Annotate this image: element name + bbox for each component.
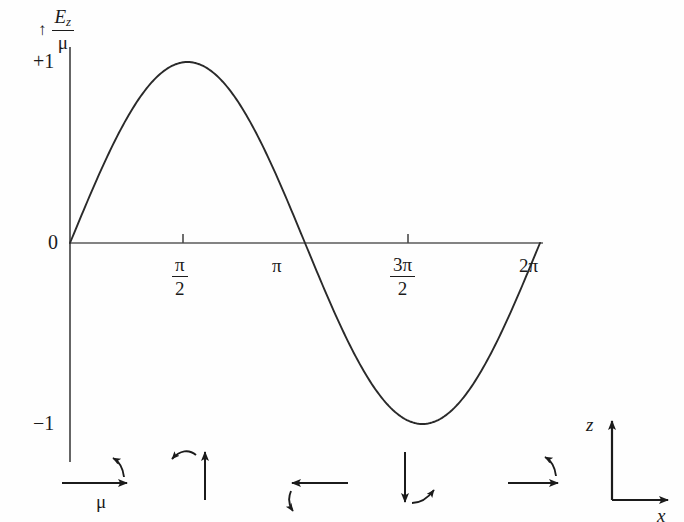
rotation-curve-1-icon xyxy=(113,458,124,477)
coord-label-z: z xyxy=(586,415,593,434)
coordinate-key xyxy=(612,421,668,500)
dipole-arrow-group-3 xyxy=(289,483,348,511)
coord-label-x: x xyxy=(657,506,665,522)
rotation-curve-4-icon xyxy=(412,490,434,503)
x-tick-label-3pi-over-2: 3π 2 xyxy=(390,254,415,300)
y-axis-fraction: Ez μ xyxy=(52,6,75,54)
y-axis-arrow-icon: ↑ xyxy=(38,21,47,38)
x-tick-label-pi: π xyxy=(272,256,282,275)
rotation-curve-2-icon xyxy=(172,451,196,459)
dipole-arrow-group-4 xyxy=(405,452,434,503)
dipole-arrow-group-1 xyxy=(62,458,127,483)
y-axis-caption: ↑ Ez μ xyxy=(38,6,74,54)
figure-root: ↑ Ez μ +1 0 −1 π 2 π 3π 2 2π μ z x xyxy=(0,0,684,522)
rotation-curve-5-icon xyxy=(545,457,556,476)
x-tick-label-pi-over-2: π 2 xyxy=(172,254,188,300)
y-tick-label-zero: 0 xyxy=(48,232,58,252)
y-axis-numerator: Ez xyxy=(52,6,75,31)
figure-canvas xyxy=(0,0,684,522)
x-tick-fraction-pi-over-2: π 2 xyxy=(172,254,188,300)
x-tick-fraction-3pi-over-2: 3π 2 xyxy=(390,254,415,300)
x-tick-label-2pi: 2π xyxy=(519,256,538,275)
y-axis-denominator: μ xyxy=(52,31,75,53)
dipole-arrow-group-2 xyxy=(172,451,205,500)
rotation-curve-3-icon xyxy=(289,491,293,511)
dipole-mu-label: μ xyxy=(96,492,106,511)
y-tick-label-plus-one: +1 xyxy=(33,51,54,71)
y-tick-label-minus-one: −1 xyxy=(33,413,54,433)
dipole-arrow-group-5 xyxy=(508,457,558,483)
